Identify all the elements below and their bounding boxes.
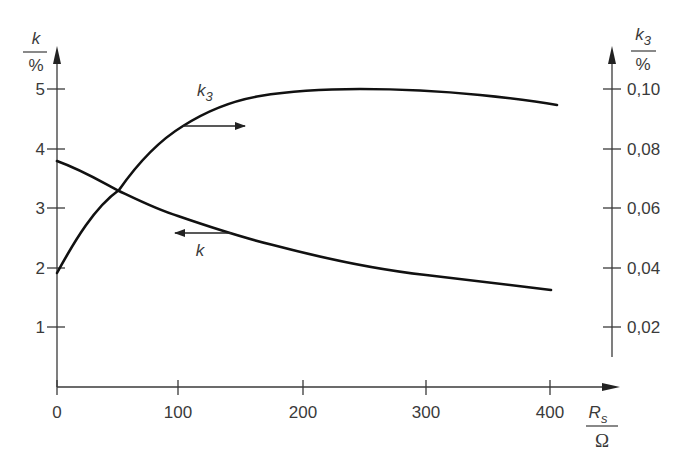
left-tick-5: 5 xyxy=(36,80,45,99)
left-tick-1: 1 xyxy=(36,318,45,337)
x-tick-100: 100 xyxy=(164,403,192,422)
left-axis-unit-label: % xyxy=(28,56,43,75)
x-axis-unit-label: Ω xyxy=(595,430,609,451)
left-tick-3: 3 xyxy=(36,199,45,218)
k3-curve-label: k3 xyxy=(197,81,214,104)
right-axis-var-label: k3 xyxy=(635,25,652,48)
curve-k xyxy=(57,161,551,290)
x-tick-200: 200 xyxy=(289,403,317,422)
k-annotation: k xyxy=(175,233,232,260)
right-tick-002: 0,02 xyxy=(627,318,660,337)
dual-axis-line-chart: 1 2 3 4 5 k % 0,02 0,04 0,06 0,08 0,10 k… xyxy=(0,0,691,465)
x-tick-400: 400 xyxy=(536,403,564,422)
x-tick-300: 300 xyxy=(412,403,440,422)
right-y-axis: 0,02 0,04 0,06 0,08 0,10 k3 % xyxy=(603,25,660,357)
left-tick-4: 4 xyxy=(36,140,45,159)
left-axis-ticks xyxy=(47,89,65,327)
x-axis: 0 100 200 300 400 Rs Ω xyxy=(52,380,620,451)
right-axis-unit-label: % xyxy=(635,55,650,74)
x-tick-0: 0 xyxy=(52,403,61,422)
left-tick-2: 2 xyxy=(36,259,45,278)
right-tick-006: 0,06 xyxy=(627,199,660,218)
left-axis-var-label: k xyxy=(32,29,42,48)
curve-k3 xyxy=(57,89,557,273)
k-curve-label: k xyxy=(196,241,206,260)
left-y-axis: 1 2 3 4 5 k % xyxy=(23,29,65,387)
left-axis-arrow-icon xyxy=(53,46,61,64)
right-tick-010: 0,10 xyxy=(627,80,660,99)
right-axis-arrow-icon xyxy=(608,46,616,64)
right-tick-008: 0,08 xyxy=(627,140,660,159)
x-axis-var-label: Rs xyxy=(589,403,608,426)
x-axis-arrow-icon xyxy=(602,383,620,391)
right-tick-004: 0,04 xyxy=(627,259,660,278)
